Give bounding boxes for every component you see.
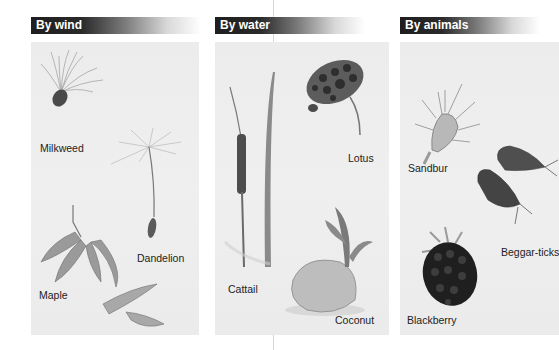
- lotus-pod-icon: [299, 51, 370, 135]
- label-maple: Maple: [39, 289, 68, 301]
- label-beggar-ticks: Beggar-ticks: [501, 246, 559, 258]
- label-coconut: Coconut: [335, 314, 374, 326]
- blackberry-icon: [417, 227, 483, 311]
- section-header-animals: By animals: [400, 17, 540, 34]
- milkweed-seed-icon: [41, 50, 103, 109]
- beggar-ticks-icon: [478, 146, 558, 224]
- panel-wind: Milkweed Dandelion Maple: [31, 42, 199, 335]
- panel-animals: Sandbur Beggar-ticks Blackberry: [400, 42, 559, 335]
- animal-seeds-illustration: [400, 42, 559, 335]
- section-header-wind: By wind: [31, 17, 201, 34]
- label-cattail: Cattail: [228, 283, 258, 295]
- sandbur-icon: [415, 84, 480, 164]
- label-milkweed: Milkweed: [40, 142, 84, 154]
- panel-water: Lotus Cattail Coconut: [215, 42, 389, 335]
- section-header-water: By water: [215, 17, 365, 34]
- cattail-icon: [225, 72, 275, 267]
- label-sandbur: Sandbur: [408, 162, 448, 174]
- label-dandelion: Dandelion: [137, 252, 184, 264]
- maple-seed-icon: [41, 205, 164, 326]
- label-lotus: Lotus: [348, 152, 374, 164]
- label-blackberry: Blackberry: [407, 314, 457, 326]
- dandelion-seed-icon: [111, 128, 181, 239]
- coconut-icon: [285, 207, 373, 316]
